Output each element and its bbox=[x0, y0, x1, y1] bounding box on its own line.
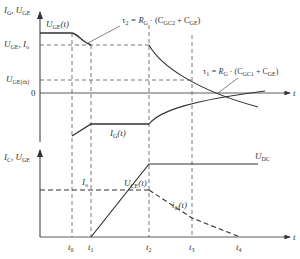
uce-t-label: UCE(t) bbox=[124, 178, 147, 189]
t3-label: t3 bbox=[189, 242, 195, 253]
t2-label: t2 bbox=[146, 242, 152, 253]
bottom-t-axis-label: t bbox=[293, 232, 296, 242]
ig-rise-curve bbox=[149, 91, 265, 124]
uge-curve bbox=[40, 33, 91, 45]
tau1-annotation: τ1 = RG · (CGC1 + CGE) bbox=[203, 67, 279, 77]
t4-label: t4 bbox=[236, 242, 242, 253]
tau2-annotation: τ2 = RG · (CGC2 + CGE) bbox=[122, 15, 201, 26]
zero-label: 0 bbox=[31, 88, 36, 98]
tau2-leader bbox=[88, 26, 120, 43]
ic-t-label: iC(t) bbox=[172, 200, 187, 211]
bottom-chart: IC, UGE Io UDC UCE(t) iC(t) t0 t1 t2 t3 … bbox=[3, 150, 296, 253]
top-chart: IG, UGE UGE, Io UGE(th) 0 UGE(t) IG(t) τ… bbox=[3, 5, 296, 237]
t1-label: t1 bbox=[88, 242, 94, 253]
top-t-axis-label: t bbox=[293, 88, 296, 98]
tau1-leader bbox=[218, 78, 238, 93]
igbt-turnoff-waveform-diagram: IG, UGE UGE, Io UGE(th) 0 UGE(t) IG(t) τ… bbox=[0, 0, 300, 259]
ic-curve bbox=[149, 190, 240, 237]
io-label: Io bbox=[81, 177, 88, 188]
uge-t-label: UGE(t) bbox=[46, 19, 69, 30]
ig-t-label: IG(t) bbox=[109, 128, 126, 139]
top-y-axis-label: IG, UGE bbox=[3, 5, 31, 16]
t0-label: t0 bbox=[68, 242, 74, 253]
uge-io-label: UGE, Io bbox=[4, 39, 29, 50]
uge-th-label: UGE(th) bbox=[6, 74, 29, 86]
udc-label: UDC bbox=[255, 151, 270, 162]
bottom-y-axis-label: IC, UGE bbox=[3, 152, 30, 163]
